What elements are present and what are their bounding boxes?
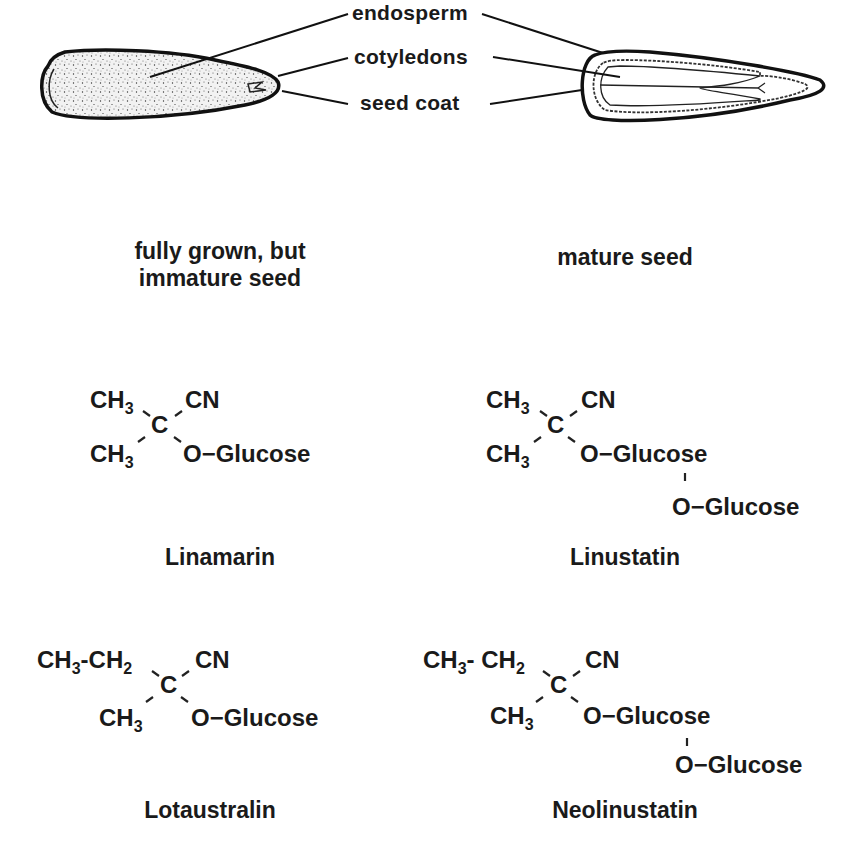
compound-name: Linamarin: [100, 544, 340, 571]
atom-c-center: C: [160, 671, 177, 699]
compound-name: Neolinustatin: [500, 797, 750, 824]
group-o-glucose: O−Glucose: [191, 704, 318, 732]
caption-immature-line2: immature seed: [100, 265, 340, 292]
compound-name: Lotaustralin: [90, 797, 330, 824]
group-ch3-top: CH3: [90, 386, 134, 418]
group-o-glucose: O−Glucose: [583, 702, 710, 730]
caption-immature-seed: fully grown, but immature seed: [100, 238, 340, 292]
group-ch3-top: CH3: [486, 386, 530, 418]
group-ch3-bottom: CH3: [99, 704, 143, 736]
group-o-glucose: O−Glucose: [183, 440, 310, 468]
atom-c-center: C: [151, 411, 168, 439]
mature-seed-drawing: [582, 51, 824, 120]
group-ch3-bottom: CH3: [90, 440, 134, 472]
group-cn: CN: [581, 386, 616, 414]
group-ch3-bottom: CH3: [486, 440, 530, 472]
group-o-glucose-second: O−Glucose: [672, 493, 799, 521]
label-endosperm: endosperm: [352, 1, 468, 25]
caption-mature-seed: mature seed: [500, 244, 750, 271]
group-ch3-bottom: CH3: [490, 702, 534, 734]
group-cn: CN: [185, 386, 220, 414]
group-o-glucose: O−Glucose: [580, 440, 707, 468]
immature-seed-drawing: [42, 50, 279, 118]
label-seed-coat: seed coat: [360, 91, 460, 115]
compound-name: Linustatin: [500, 544, 750, 571]
atom-c-center: C: [547, 411, 564, 439]
group-cn: CN: [585, 646, 620, 674]
label-cotyledons: cotyledons: [354, 45, 468, 69]
group-o-glucose-second: O−Glucose: [675, 751, 802, 779]
atom-c-center: C: [550, 671, 567, 699]
group-cn: CN: [195, 646, 230, 674]
group-ch3-ch2: CH3-CH2: [37, 646, 132, 678]
group-ch3-ch2: CH3- CH2: [423, 646, 525, 678]
caption-immature-line1: fully grown, but: [100, 238, 340, 265]
